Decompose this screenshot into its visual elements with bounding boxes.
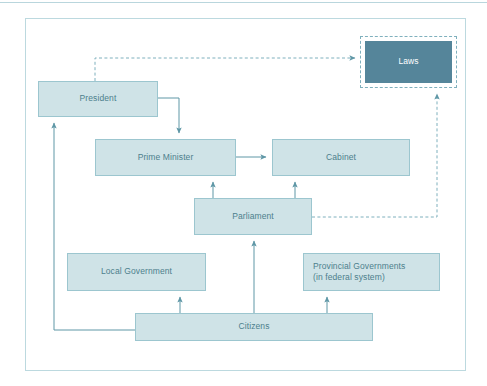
node-provincial-governments-line2: (in federal system) [313,272,385,282]
node-citizens[interactable]: Citizens [135,313,373,341]
diagram-page: Laws President Prime Minister Cabinet Pa… [0,0,487,386]
edge-president-to-laws [95,58,355,81]
node-cabinet[interactable]: Cabinet [272,139,410,176]
node-citizens-label: Citizens [238,321,269,332]
node-prime-minister[interactable]: Prime Minister [95,139,236,176]
edge-president-to-prime-minister [158,98,179,133]
node-prime-minister-label: Prime Minister [138,152,194,163]
node-president[interactable]: President [38,81,158,117]
node-provincial-governments[interactable]: Provincial Governments (in federal syste… [303,253,440,291]
node-laws[interactable]: Laws [365,41,452,83]
node-cabinet-label: Cabinet [326,152,356,163]
node-laws-label: Laws [398,56,418,67]
node-local-government[interactable]: Local Government [67,253,206,291]
node-provincial-governments-line1: Provincial Governments [313,261,405,271]
node-president-label: President [80,93,117,104]
node-local-government-label: Local Government [101,266,172,277]
node-parliament-label: Parliament [232,211,274,222]
node-parliament[interactable]: Parliament [194,198,312,235]
node-provincial-governments-label: Provincial Governments (in federal syste… [313,261,405,284]
